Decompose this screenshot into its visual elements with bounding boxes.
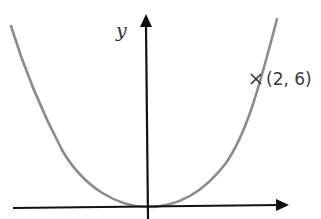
y-axis [140,14,152,219]
parabola-curve [11,19,277,207]
parabola-graph: y (2, 6) [0,0,321,219]
y-axis-label: y [115,19,127,41]
x-axis-arrow-icon [276,199,289,211]
y-axis-arrow-icon [140,14,152,27]
x-axis [13,199,289,211]
point-label: (2, 6) [266,69,312,89]
